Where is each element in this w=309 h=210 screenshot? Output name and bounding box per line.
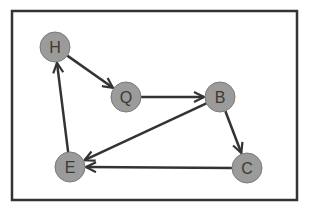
node-q: Q xyxy=(111,82,141,112)
node-c: C xyxy=(232,153,262,183)
node-label: E xyxy=(65,159,76,176)
node-b: B xyxy=(205,82,235,112)
edge-c-to-e xyxy=(86,167,232,168)
graph-diagram: HQBCE xyxy=(0,0,309,210)
node-label: C xyxy=(241,160,253,177)
edges-layer xyxy=(57,56,241,168)
edge-h-to-q xyxy=(67,56,113,88)
edge-b-to-e xyxy=(84,103,206,160)
node-label: H xyxy=(49,39,61,56)
node-h: H xyxy=(40,32,70,62)
node-label: Q xyxy=(120,89,132,106)
edge-e-to-h xyxy=(57,63,68,152)
node-label: B xyxy=(215,89,226,106)
edge-b-to-c xyxy=(225,111,241,153)
nodes-layer: HQBCE xyxy=(40,32,262,183)
node-e: E xyxy=(55,152,85,182)
